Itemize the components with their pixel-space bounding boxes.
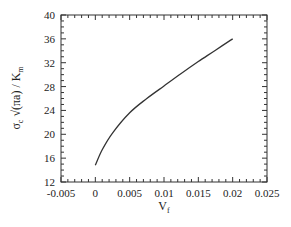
series-line bbox=[95, 39, 232, 165]
y-tick-label: 20 bbox=[44, 128, 56, 140]
x-tick-label: -0.005 bbox=[47, 187, 76, 199]
x-tick-label: 0.02 bbox=[223, 187, 242, 199]
x-tick-label: 0.01 bbox=[154, 187, 173, 199]
y-tick-label: 40 bbox=[44, 9, 56, 21]
x-tick-label: 0.025 bbox=[255, 187, 280, 199]
y-tick-label: 32 bbox=[44, 57, 55, 69]
y-tick-label: 12 bbox=[44, 176, 55, 188]
y-axis-tick-labels: 1216202428323640 bbox=[44, 9, 56, 188]
x-tick-label: 0 bbox=[93, 187, 99, 199]
plot-frame bbox=[61, 15, 267, 182]
x-tick-label: 0.015 bbox=[186, 187, 211, 199]
x-axis-ticks bbox=[61, 15, 267, 182]
x-axis-tick-labels: -0.00500.0050.010.0150.020.025 bbox=[47, 187, 280, 199]
chart: -0.00500.0050.010.0150.020.025 121620242… bbox=[0, 0, 291, 227]
data-series bbox=[95, 39, 232, 165]
x-tick-label: 0.005 bbox=[117, 187, 142, 199]
y-tick-label: 28 bbox=[44, 81, 56, 93]
y-axis-ticks bbox=[61, 15, 267, 182]
x-axis-label: Vf bbox=[158, 199, 170, 215]
y-tick-label: 16 bbox=[44, 152, 56, 164]
y-axis-label: σc √(πa) / Km bbox=[9, 66, 25, 130]
y-tick-label: 24 bbox=[44, 104, 56, 116]
plot-border bbox=[61, 15, 267, 182]
y-tick-label: 36 bbox=[44, 33, 56, 45]
